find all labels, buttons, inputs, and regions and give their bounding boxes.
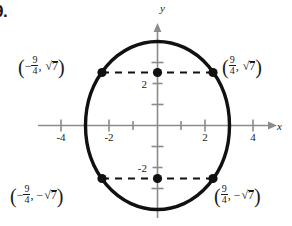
point-lower-right: [208, 174, 217, 183]
paren-open: (: [18, 56, 25, 78]
paren-open: (: [10, 185, 17, 207]
radical-seven: √7: [240, 189, 254, 201]
fraction-nine-fourths: 94: [31, 55, 38, 76]
point-label-upper-right: (94, √7): [222, 55, 262, 77]
point-upper-left: [97, 68, 106, 77]
fraction-nine-fourths: 94: [229, 55, 236, 76]
point-label-lower-right: (94, −√7): [214, 184, 261, 206]
radical-seven: √7: [242, 60, 256, 72]
point-label-lower-left: (−94, −√7): [10, 184, 64, 206]
y-axis-label: y: [160, 2, 165, 14]
x-tick-label-2: 2: [195, 131, 215, 143]
y-tick-label--2: -2: [126, 162, 147, 174]
point-lower-left: [97, 174, 106, 183]
point-upper-right: [208, 68, 217, 77]
y-axis: [152, 23, 164, 218]
fraction-nine-fourths: 94: [221, 184, 228, 205]
point-lower-center: [153, 174, 162, 183]
paren-close: ): [58, 56, 65, 78]
paren-open: (: [222, 56, 229, 78]
x-tick-label--2: -2: [99, 131, 119, 143]
paren-close: ): [254, 185, 261, 207]
x-tick-label-4: 4: [243, 131, 263, 143]
x-axis-label: x: [277, 120, 282, 132]
paren-close: ): [255, 56, 262, 78]
minus-sign: −: [36, 188, 43, 202]
point-upper-center: [153, 68, 162, 77]
paren-close: ): [57, 185, 64, 207]
radical-seven: √7: [44, 60, 58, 72]
fraction-nine-fourths: 94: [23, 184, 30, 205]
x-tick-label--4: -4: [51, 131, 71, 143]
paren-open: (: [214, 185, 221, 207]
point-label-upper-left: (−94, √7): [18, 55, 65, 77]
radical-seven: √7: [43, 189, 57, 201]
minus-sign: −: [17, 188, 24, 202]
minus-sign: −: [234, 188, 241, 202]
y-tick-label-2: 2: [131, 78, 147, 90]
minus-sign: −: [25, 59, 32, 73]
